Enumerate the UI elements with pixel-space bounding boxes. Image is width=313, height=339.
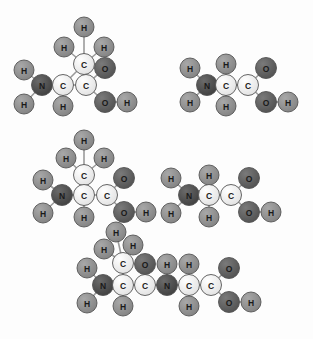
- atom-o: O: [256, 92, 277, 113]
- atom-h: H: [33, 203, 53, 223]
- atom-o: O: [114, 168, 135, 189]
- atom-c: C: [201, 275, 222, 296]
- atom-sphere-h: [179, 296, 199, 316]
- atom-n: N: [52, 185, 73, 206]
- atom-h: H: [14, 94, 34, 114]
- atom-sphere-h: [113, 296, 133, 316]
- atom-sphere-n: [52, 185, 73, 206]
- molecule-alanylglycine-bottom: HHHCHNHCHCONHCHHCOOH: [77, 222, 261, 316]
- atom-sphere-c: [221, 185, 242, 206]
- atom-sphere-h: [117, 92, 137, 112]
- atom-sphere-h: [54, 37, 74, 57]
- atom-o: O: [256, 58, 277, 79]
- atom-sphere-n: [32, 75, 53, 96]
- atom-sphere-h: [33, 203, 53, 223]
- atom-sphere-h: [74, 17, 94, 37]
- atom-sphere-n: [197, 75, 218, 96]
- atom-c: C: [76, 75, 97, 96]
- atom-c: C: [74, 165, 95, 186]
- atom-sphere-h: [14, 60, 34, 80]
- atom-n: N: [197, 75, 218, 96]
- atom-h: H: [54, 37, 74, 57]
- atom-n: N: [93, 275, 114, 296]
- atom-h: H: [241, 292, 261, 312]
- atom-c: C: [74, 54, 95, 75]
- atom-c: C: [238, 75, 259, 96]
- atom-h: H: [53, 96, 73, 116]
- atom-h: H: [77, 293, 97, 313]
- atom-h: H: [261, 202, 281, 222]
- atom-sphere-o: [256, 92, 277, 113]
- atom-sphere-h: [77, 293, 97, 313]
- atom-c: C: [113, 275, 134, 296]
- atom-h: H: [180, 92, 200, 112]
- atom-sphere-c: [74, 185, 95, 206]
- atom-o: O: [219, 258, 240, 279]
- atom-sphere-h: [216, 54, 236, 74]
- atom-sphere-h: [161, 203, 181, 223]
- atom-sphere-h: [216, 96, 236, 116]
- atom-sphere-c: [53, 75, 74, 96]
- atom-c: C: [97, 185, 118, 206]
- atom-h: H: [179, 296, 199, 316]
- atom-o: O: [95, 92, 116, 113]
- atom-c: C: [216, 75, 237, 96]
- atom-n: N: [32, 75, 53, 96]
- atom-h: H: [157, 254, 177, 274]
- atom-h: H: [216, 96, 236, 116]
- atom-sphere-h: [123, 235, 143, 255]
- atom-sphere-h: [74, 130, 94, 150]
- atom-sphere-h: [241, 292, 261, 312]
- atom-h: H: [33, 170, 53, 190]
- atom-sphere-h: [53, 96, 73, 116]
- molecules-layer: HHHCHNHCHCOOHHNHHCHCOOHHHHCHNHCHCOOHHNHH…: [14, 17, 298, 316]
- atom-o: O: [219, 292, 240, 313]
- atom-o: O: [239, 168, 260, 189]
- atom-sphere-n: [179, 185, 200, 206]
- atom-sphere-h: [180, 58, 200, 78]
- atom-o: O: [95, 58, 116, 79]
- atom-h: H: [56, 148, 76, 168]
- atom-sphere-h: [33, 170, 53, 190]
- atom-h: H: [113, 296, 133, 316]
- atom-sphere-h: [157, 254, 177, 274]
- atom-sphere-h: [56, 148, 76, 168]
- atom-h: H: [94, 37, 114, 57]
- atom-sphere-o: [114, 202, 135, 223]
- molecule-alanine-middle-left: HHHCHNHCHCOOH: [33, 130, 156, 227]
- atom-sphere-n: [157, 275, 178, 296]
- molecule-glycine-top-right: HNHHCHCOOH: [180, 54, 298, 116]
- atom-o: O: [135, 254, 156, 275]
- atom-h: H: [77, 258, 97, 278]
- atom-c: C: [221, 185, 242, 206]
- atom-sphere-h: [136, 202, 156, 222]
- atom-sphere-c: [135, 275, 156, 296]
- atom-c: C: [179, 275, 200, 296]
- atom-o: O: [114, 202, 135, 223]
- atom-sphere-h: [278, 92, 298, 112]
- atom-o: O: [239, 202, 260, 223]
- atom-sphere-c: [76, 75, 97, 96]
- atom-sphere-c: [238, 75, 259, 96]
- atom-c: C: [113, 253, 134, 274]
- atom-sphere-h: [261, 202, 281, 222]
- atom-h: H: [14, 60, 34, 80]
- atom-sphere-h: [94, 239, 114, 259]
- atom-h: H: [106, 222, 126, 242]
- atom-h: H: [161, 203, 181, 223]
- atom-sphere-c: [179, 275, 200, 296]
- atom-sphere-c: [97, 185, 118, 206]
- atom-sphere-c: [113, 275, 134, 296]
- atom-sphere-h: [199, 207, 219, 227]
- atom-sphere-o: [219, 292, 240, 313]
- atom-sphere-o: [239, 202, 260, 223]
- atom-sphere-h: [161, 168, 181, 188]
- atom-sphere-o: [239, 168, 260, 189]
- atom-sphere-h: [94, 148, 114, 168]
- atom-h: H: [199, 165, 219, 185]
- atom-c: C: [53, 75, 74, 96]
- atom-sphere-c: [74, 54, 95, 75]
- atom-sphere-c: [216, 75, 237, 96]
- atom-sphere-c: [199, 185, 220, 206]
- molecule-diagram-canvas: HHHCHNHCHCOOHHNHHCHCOOHHHHCHNHCHCOOHHNHH…: [0, 0, 313, 339]
